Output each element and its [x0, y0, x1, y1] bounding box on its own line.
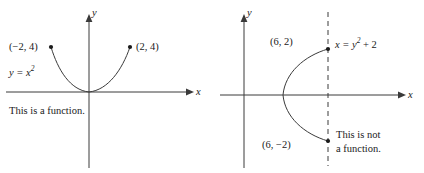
parabola-curve-up: [51, 47, 130, 92]
x-axis-label-right: x: [408, 89, 413, 100]
equation-base-right: x = y: [335, 39, 357, 50]
caption-right-line-2: a function.: [336, 142, 381, 156]
point-marker-6-2: [326, 47, 330, 51]
point-marker-2-4: [128, 45, 132, 49]
left-panel-graphic: [0, 0, 212, 173]
y-axis-label-right: y: [247, 7, 252, 18]
point-label-neg2-4: (−2, 4): [9, 40, 38, 53]
panel-not-function-example: x y (6, 2) (6, −2) x = y2 + 2 This is no…: [212, 0, 424, 173]
caption-left-line-1: This is a function.: [9, 104, 85, 118]
figure-vertical-line-test: x y (−2, 4) (2, 4) y = x2 This is a func…: [0, 0, 424, 173]
x-axis-left: [6, 89, 194, 96]
point-label-2-4: (2, 4): [136, 40, 159, 53]
equation-label-right: x = y2 + 2: [335, 36, 377, 51]
y-axis-left: [86, 14, 93, 168]
caption-right-line-1: This is not: [336, 128, 381, 142]
y-axis-label-left: y: [92, 7, 97, 18]
point-marker-neg2-4: [49, 45, 53, 49]
equation-base-left: y = x: [9, 67, 31, 78]
equation-exponent-left: 2: [31, 64, 35, 73]
y-axis-right: [241, 14, 248, 168]
caption-right: This is not a function.: [336, 128, 381, 155]
x-axis-right: [220, 92, 406, 99]
caption-left: This is a function.: [9, 104, 85, 118]
point-marker-6-neg2: [326, 139, 330, 143]
equation-tail-right: + 2: [360, 39, 376, 50]
equation-label-left: y = x2: [9, 64, 34, 79]
point-label-6-2: (6, 2): [270, 35, 293, 48]
panel-function-example: x y (−2, 4) (2, 4) y = x2 This is a func…: [0, 0, 212, 173]
x-axis-label-left: x: [196, 86, 201, 97]
right-panel-graphic: [212, 0, 424, 173]
point-label-6-neg2: (6, −2): [262, 138, 291, 151]
